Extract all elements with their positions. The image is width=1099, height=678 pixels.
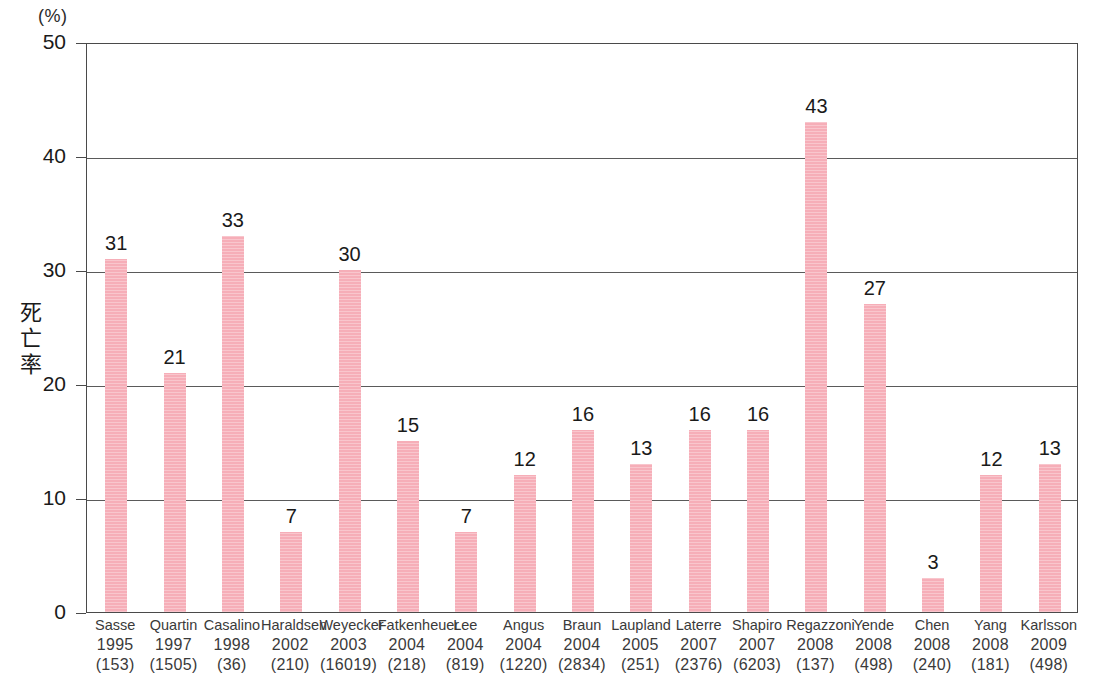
bar-value-label: 12: [980, 448, 1002, 471]
x-axis-label-count: (210): [261, 655, 319, 675]
bar[interactable]: [455, 532, 477, 612]
x-axis-label-author: Yang: [961, 615, 1019, 635]
x-axis-label-year: 2008: [845, 635, 903, 655]
x-axis-label: Yende2008(498): [845, 615, 903, 675]
x-axis-labels: Sasse1995(153)Quartin1997(1505)Casalino1…: [86, 615, 1078, 677]
bar[interactable]: [397, 441, 419, 612]
bar[interactable]: [980, 475, 1002, 612]
bar[interactable]: [105, 259, 127, 612]
x-axis-label-author: Angus: [494, 615, 552, 635]
bar-slot: 16: [554, 44, 612, 612]
x-axis-label-year: 2004: [553, 635, 611, 655]
bar-value-label: 12: [514, 448, 536, 471]
bar-slot: 16: [671, 44, 729, 612]
y-axis-tick-mark: [76, 385, 86, 386]
bar[interactable]: [1039, 464, 1061, 612]
x-axis-label-year: 2008: [903, 635, 961, 655]
bar-slot: 21: [145, 44, 203, 612]
bar-value-label: 21: [163, 346, 185, 369]
y-axis-tick-label: 20: [43, 372, 66, 396]
x-axis-label-year: 2007: [728, 635, 786, 655]
x-axis-label: Weyecker2003(16019): [319, 615, 377, 675]
x-axis-label: Lee2004(819): [436, 615, 494, 675]
x-axis-label-year: 2004: [494, 635, 552, 655]
bar[interactable]: [922, 578, 944, 612]
x-axis-label: Sasse1995(153): [86, 615, 144, 675]
x-axis-label-count: (16019): [319, 655, 377, 675]
x-axis-label-count: (2376): [670, 655, 728, 675]
x-axis-label-author: Haraldsen: [261, 615, 319, 635]
bar-value-label: 15: [397, 414, 419, 437]
x-axis-label: Haraldsen2002(210): [261, 615, 319, 675]
y-axis-tick-label: 50: [43, 30, 66, 54]
x-axis-label-year: 2008: [961, 635, 1019, 655]
plot-area: 3121337301571216131616432731213: [86, 43, 1078, 613]
bar[interactable]: [689, 430, 711, 612]
y-axis-tick-mark: [76, 43, 86, 44]
bar[interactable]: [630, 464, 652, 612]
bar-value-label: 43: [805, 95, 827, 118]
y-axis-tick-mark: [76, 613, 86, 614]
x-axis-label-author: Weyecker: [319, 615, 377, 635]
x-axis-label: Regazzoni2008(137): [786, 615, 844, 675]
x-axis-label-count: (1220): [494, 655, 552, 675]
bar-slot: 43: [787, 44, 845, 612]
bar-slot: 16: [729, 44, 787, 612]
x-axis-label-year: 1997: [144, 635, 202, 655]
bar[interactable]: [572, 430, 594, 612]
bar-slot: 33: [204, 44, 262, 612]
x-axis-label-count: (137): [786, 655, 844, 675]
x-axis-label-count: (153): [86, 655, 144, 675]
bar[interactable]: [747, 430, 769, 612]
bar-slot: 7: [262, 44, 320, 612]
bar-slot: 3: [904, 44, 962, 612]
x-axis-label: Laterre2007(2376): [670, 615, 728, 675]
x-axis-label-count: (6203): [728, 655, 786, 675]
bar[interactable]: [222, 236, 244, 612]
x-axis-label-count: (1505): [144, 655, 202, 675]
bar[interactable]: [164, 373, 186, 612]
x-axis-label-author: Shapiro: [728, 615, 786, 635]
bar-value-label: 30: [338, 243, 360, 266]
x-axis-label-author: Quartin: [144, 615, 202, 635]
x-axis-label-author: Regazzoni: [786, 615, 844, 635]
x-axis-label-count: (819): [436, 655, 494, 675]
x-axis-label: Casalino1998(36): [203, 615, 261, 675]
bar[interactable]: [805, 122, 827, 612]
x-axis-label: Yang2008(181): [961, 615, 1019, 675]
x-axis-label-year: 2008: [786, 635, 844, 655]
y-axis-tick-label: 0: [54, 600, 66, 624]
bar-slot: 7: [437, 44, 495, 612]
mortality-rate-bar-chart: (%) 死 亡 率 01020304050 312133730157121613…: [0, 0, 1099, 678]
x-axis-label: Karlsson2009(498): [1020, 615, 1078, 675]
x-axis-label-year: 1998: [203, 635, 261, 655]
x-axis-label-year: 2004: [378, 635, 436, 655]
x-axis-label-year: 2003: [319, 635, 377, 655]
bar[interactable]: [514, 475, 536, 612]
x-axis-label-year: 2009: [1020, 635, 1078, 655]
bar-slot: 30: [320, 44, 378, 612]
bar[interactable]: [864, 304, 886, 612]
bar-value-label: 13: [1039, 437, 1061, 460]
bar[interactable]: [339, 270, 361, 612]
bar-slot: 15: [379, 44, 437, 612]
x-axis-label-count: (218): [378, 655, 436, 675]
y-axis-tick-label: 30: [43, 258, 66, 282]
y-axis: 01020304050: [0, 0, 86, 678]
x-axis-label-count: (2834): [553, 655, 611, 675]
bar-slot: 31: [87, 44, 145, 612]
bar-slot: 13: [1021, 44, 1079, 612]
y-axis-tick-mark: [76, 499, 86, 500]
x-axis-label-year: 2002: [261, 635, 319, 655]
y-axis-tick-label: 40: [43, 144, 66, 168]
x-axis-label-author: Chen: [903, 615, 961, 635]
x-axis-label-author: Lee: [436, 615, 494, 635]
x-axis-label-author: Braun: [553, 615, 611, 635]
x-axis-label-author: Casalino: [203, 615, 261, 635]
bar-value-label: 3: [928, 551, 939, 574]
bar-slot: 27: [846, 44, 904, 612]
bar[interactable]: [280, 532, 302, 612]
x-axis-label-year: 2004: [436, 635, 494, 655]
x-axis-label: Laupland2005(251): [611, 615, 669, 675]
x-axis-label-author: Karlsson: [1020, 615, 1078, 635]
